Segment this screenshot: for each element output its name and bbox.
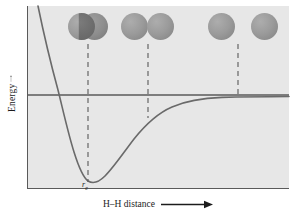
x-axis-label: H–H distance [103, 199, 155, 209]
x-axis-arrow-icon [161, 200, 213, 209]
y-axis-label: Energy [7, 90, 17, 112]
equilibrium-distance-label: re [72, 180, 98, 191]
hydrogen-atom-right [251, 13, 278, 40]
atom-pair-overlapping [68, 0, 108, 42]
atom-pair-separated [208, 0, 278, 42]
hydrogen-atom-left [208, 13, 235, 40]
x-axis-label-group: H–H distance [27, 199, 289, 209]
hydrogen-atom-right [147, 13, 174, 40]
re-subscript: e [85, 185, 88, 191]
atom-pair-touching [121, 0, 175, 42]
potential-energy-figure: re Energy H–H distance [0, 0, 295, 220]
hydrogen-atom-left [121, 13, 148, 40]
